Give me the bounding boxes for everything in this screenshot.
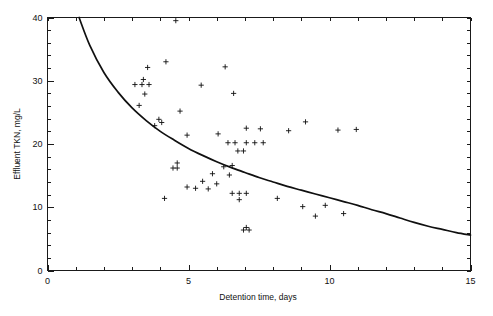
x-tick-label: 0 [45,276,50,286]
data-point [132,82,137,87]
y-tick-label: 0 [37,266,42,276]
chart-figure: 051015 010203040 Detention time, days Ef… [0,0,493,316]
x-axis-minor-ticks [49,18,472,271]
data-point [241,148,246,153]
data-point [300,204,305,209]
data-point [237,191,242,196]
y-tick-label: 10 [32,202,42,212]
data-point [184,184,189,189]
data-point [193,186,198,191]
data-point [244,225,249,230]
data-point [163,59,168,64]
x-tick-label: 10 [324,276,334,286]
data-point [137,103,142,108]
x-axis-title: Detention time, days [219,292,296,302]
data-point [173,18,178,23]
data-point [156,117,161,122]
data-point [175,165,180,170]
y-tick-label: 30 [32,76,42,86]
data-point [139,82,144,87]
data-point [146,82,151,87]
data-point [216,131,221,136]
data-point-markers [132,18,359,233]
y-tick-label: 20 [32,139,42,149]
data-point [286,128,291,133]
data-point [275,196,280,201]
data-point [247,227,252,232]
data-point [159,120,164,125]
data-point [313,214,318,219]
data-point [223,64,228,69]
data-point [232,140,237,145]
data-point [241,227,246,232]
data-point [175,160,180,165]
data-point [206,186,211,191]
data-point [142,91,147,96]
data-point [335,127,340,132]
data-point [227,172,232,177]
data-point [199,83,204,88]
data-point [252,140,257,145]
data-point [177,109,182,114]
data-point [303,119,308,124]
x-tick-label: 15 [465,276,475,286]
fit-curve [79,18,470,236]
y-axis-title: Effluent TKN, mg/L [12,108,22,180]
data-point [244,140,249,145]
x-tick-label: 5 [186,276,191,286]
data-point [341,211,346,216]
data-point [230,191,235,196]
data-point [200,179,205,184]
y-axis-tick-labels: 010203040 [32,13,42,276]
data-point [237,197,242,202]
data-point [225,140,230,145]
y-axis-minor-ticks [48,19,471,272]
scatter-plot: 051015 010203040 Detention time, days Ef… [0,0,493,316]
data-point [323,203,328,208]
x-axis-tick-labels: 051015 [45,276,476,286]
x-axis-major-ticks [49,265,472,271]
data-point [214,181,219,186]
axes-frame [48,18,471,271]
data-point [231,91,236,96]
data-point [162,196,167,201]
data-point [244,191,249,196]
data-point [184,133,189,138]
data-point [145,65,150,70]
data-point [244,126,249,131]
data-point [210,171,215,176]
data-point [354,127,359,132]
data-point [141,77,146,82]
y-tick-label: 40 [32,13,42,23]
data-point [235,148,240,153]
data-point [258,126,263,131]
data-point [261,140,266,145]
